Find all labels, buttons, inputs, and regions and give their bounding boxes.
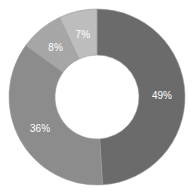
slice-label-3: 7%	[76, 28, 90, 39]
donut-chart: 49% 36% 8% 7%	[0, 0, 194, 196]
slice-label-1: 36%	[30, 123, 50, 134]
slice-label-0: 49%	[152, 89, 172, 100]
slice-label-2: 8%	[48, 41, 62, 52]
